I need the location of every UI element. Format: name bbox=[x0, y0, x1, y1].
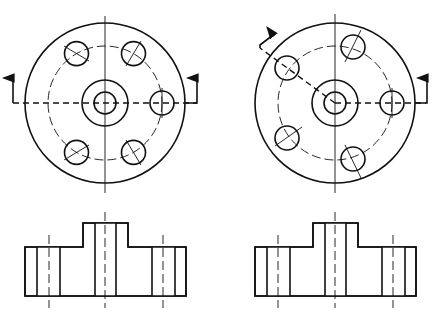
cut-arrow-right-icon bbox=[185, 78, 197, 103]
cut-arrow-right-icon bbox=[415, 78, 427, 103]
right-section-view bbox=[255, 212, 416, 308]
flange-drawing bbox=[0, 0, 436, 318]
cut-arrow-left-icon bbox=[260, 35, 273, 48]
cut-line-angled bbox=[260, 48, 335, 103]
right-top-view bbox=[255, 14, 427, 193]
bolt-holes bbox=[275, 30, 404, 178]
left-top-view bbox=[13, 16, 197, 193]
left-section-view bbox=[25, 212, 186, 308]
